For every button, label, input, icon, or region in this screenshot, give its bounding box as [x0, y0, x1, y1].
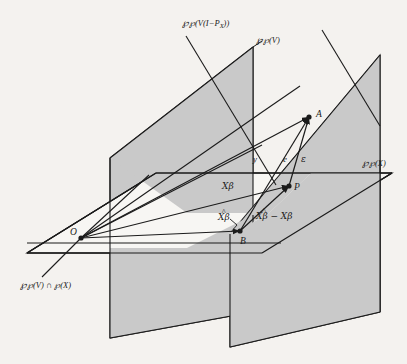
vertex-dot-o	[78, 235, 83, 240]
label-point-b: B	[240, 237, 246, 247]
label-vector-e: e	[283, 155, 287, 164]
figure-root: ℘℘(V(I−PX)) ℘℘(V) ℘℘(X) ℘℘(V) ∩ ℘(X) O A…	[0, 0, 407, 364]
label-space-intersection-body: ℘(V) ∩ ℘(X)	[27, 280, 71, 290]
label-point-a: A	[316, 110, 322, 120]
vertex-dot-b	[237, 228, 242, 233]
label-vector-xhatbeta-hatwrap: ^ Xβ	[218, 213, 230, 222]
script-c-glyph-1: ℘	[182, 17, 189, 28]
label-vector-xbeta: Xβ	[222, 182, 234, 191]
vertex-dot-p	[286, 183, 291, 188]
label-point-o: O	[70, 228, 77, 238]
script-c-glyph-2: ℘	[256, 34, 263, 45]
label-vector-epsilon-glyph: ε	[301, 154, 306, 164]
hat-accent-icon: ^	[222, 208, 226, 217]
diagram-canvas	[0, 0, 407, 364]
label-space-c-x-body: ℘(X)	[369, 158, 386, 168]
label-vector-difference: ^ Xβ − Xβ	[256, 212, 292, 221]
label-vector-epsilon: ε	[301, 155, 306, 164]
label-space-c-v-i-minus-px-tail: ))	[224, 18, 230, 28]
label-space-c-v-i-minus-px: ℘℘(V(I−PX))	[182, 18, 229, 29]
script-c-glyph-3: ℘	[362, 157, 369, 168]
script-c-glyph-4: ℘	[20, 279, 27, 290]
hat-accent-icon-2: ^	[262, 207, 266, 216]
label-vector-xhatbeta: ^ Xβ	[218, 213, 230, 222]
label-space-c-v: ℘℘(V)	[256, 35, 280, 45]
vertex-dot-a	[306, 114, 311, 119]
label-point-p: P	[294, 183, 300, 193]
label-vector-difference-hatwrap: ^ Xβ − Xβ	[256, 212, 292, 221]
label-space-c-v-body: ℘(V)	[263, 35, 280, 45]
label-vector-y: y	[253, 155, 257, 164]
label-space-c-v-i-minus-px-body: ℘(V(I−P	[189, 18, 220, 28]
label-vector-xbeta-glyph: Xβ	[222, 181, 234, 191]
label-space-c-x: ℘℘(X)	[362, 158, 386, 168]
label-space-intersection: ℘℘(V) ∩ ℘(X)	[20, 280, 71, 290]
